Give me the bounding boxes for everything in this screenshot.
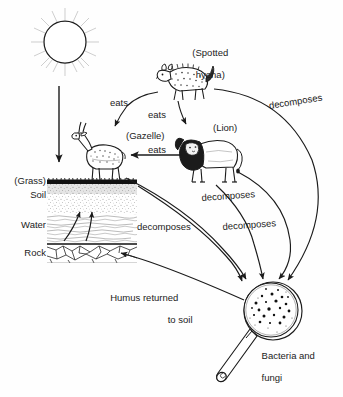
label-humus-line1: Humus returned <box>110 292 178 303</box>
label-spotted-hyena-line1: (Spotted <box>192 47 228 58</box>
label-bacteria-fungi: Bacteria and fungi <box>251 339 321 394</box>
label-humus-line2: to soil <box>107 314 193 325</box>
label-lion: (Lion) <box>213 122 237 133</box>
label-eats-hyena-lion: eats <box>148 109 166 120</box>
label-bacteria-line1: Bacteria and <box>262 350 315 361</box>
gazelle-icon <box>72 122 125 181</box>
label-bacteria-line2: fungi <box>262 372 283 383</box>
label-humus-returned: Humus returned to soil <box>96 281 182 336</box>
ecosystem-diagram-page: (Spotted hyena) (Lion) (Gazelle) (Grass)… <box>0 0 343 397</box>
label-soil: Soil <box>0 189 46 200</box>
label-grass: (Grass) <box>0 175 46 186</box>
label-water: Water <box>0 219 46 230</box>
label-eats-lion-gazelle: eats <box>148 144 166 155</box>
label-decomposes-grass: decomposes <box>137 221 191 232</box>
lion-icon <box>175 138 242 182</box>
edge-hyena-to-microbes <box>214 89 318 280</box>
edge-hyena-to-lion <box>178 101 186 124</box>
label-gazelle: (Gazelle) <box>126 130 165 141</box>
label-spotted-hyena-line2: hyena) <box>196 69 225 80</box>
label-rock: Rock <box>0 247 46 258</box>
label-spotted-hyena: (Spotted hyena) <box>176 36 234 91</box>
diagram-canvas <box>0 0 343 397</box>
sun-icon <box>31 8 99 76</box>
label-eats-hyena-gazelle: eats <box>110 97 128 108</box>
